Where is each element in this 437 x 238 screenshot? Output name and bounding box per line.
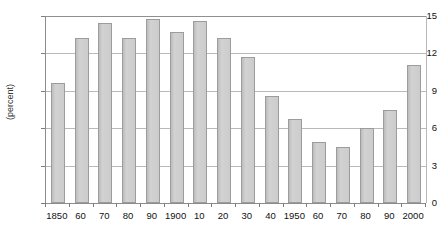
x-tick-mark xyxy=(69,203,70,207)
x-tick-mark xyxy=(306,203,307,207)
bar xyxy=(51,83,65,203)
bar xyxy=(193,21,207,203)
x-tick-label: 2000 xyxy=(395,210,431,221)
y-axis-title-label: (percent) xyxy=(5,83,15,119)
x-tick-mark xyxy=(164,203,165,207)
bar xyxy=(407,65,421,203)
x-tick-mark xyxy=(116,203,117,207)
x-tick-mark xyxy=(401,203,402,207)
bar xyxy=(98,23,112,203)
x-tick-mark xyxy=(93,203,94,207)
bar xyxy=(265,96,279,203)
x-tick-mark xyxy=(188,203,189,207)
bar xyxy=(336,147,350,203)
bar-chart: (percent) 03691215 185060708090190010203… xyxy=(0,0,437,238)
bar xyxy=(241,57,255,203)
x-tick-mark xyxy=(283,203,284,207)
x-tick-mark xyxy=(354,203,355,207)
x-tick-mark xyxy=(140,203,141,207)
bar xyxy=(75,38,89,203)
bar xyxy=(122,38,136,203)
bar xyxy=(312,142,326,203)
gridline-15 xyxy=(46,16,426,17)
bar xyxy=(170,32,184,203)
bar xyxy=(383,110,397,204)
x-tick-mark xyxy=(211,203,212,207)
x-tick-mark xyxy=(378,203,379,207)
plot-area xyxy=(45,16,427,203)
bar xyxy=(217,38,231,203)
bar xyxy=(360,128,374,203)
bar xyxy=(288,119,302,203)
x-tick-mark xyxy=(425,203,426,207)
x-tick-mark xyxy=(330,203,331,207)
bar xyxy=(146,19,160,204)
y-axis-title: (percent) xyxy=(2,0,18,203)
x-tick-mark-origin xyxy=(45,203,46,207)
x-tick-mark xyxy=(235,203,236,207)
x-axis: 1850607080901900102030401950607080902000 xyxy=(45,203,426,238)
x-tick-mark xyxy=(259,203,260,207)
